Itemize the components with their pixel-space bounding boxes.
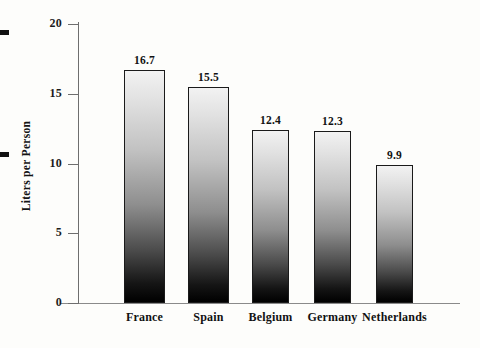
bar-value-label-belgium: 12.4 — [240, 114, 301, 126]
y-axis-tick-label: 0 — [32, 295, 62, 310]
x-axis-line — [60, 303, 460, 304]
y-axis-tick-label: 5 — [32, 225, 62, 240]
bar-value-label-spain: 15.5 — [176, 71, 241, 83]
y-axis-tick-label: 20 — [32, 16, 62, 31]
bar-belgium — [252, 130, 289, 303]
y-axis-tick-label: 10 — [32, 156, 62, 171]
bar-france — [124, 70, 165, 303]
scan-edge-mark-middle — [0, 152, 9, 157]
y-axis-title: Liters per Person — [20, 106, 32, 226]
y-axis-tick — [68, 303, 79, 304]
y-axis-tick — [68, 164, 79, 165]
x-axis-label-netherlands: Netherlands — [350, 310, 439, 325]
bar-value-label-germany: 12.3 — [302, 115, 363, 127]
scan-edge-mark-top — [0, 30, 9, 35]
bar-value-label-netherlands: 9.9 — [364, 149, 425, 161]
bar-netherlands — [376, 165, 413, 303]
y-axis-tick — [68, 94, 79, 95]
bar-chart: Liters per Person 05101520 16.7France15.… — [0, 0, 480, 348]
y-axis-tick-label: 15 — [32, 86, 62, 101]
bar-spain — [188, 87, 229, 303]
y-axis-tick — [68, 24, 79, 25]
bar-value-label-france: 16.7 — [112, 54, 177, 66]
bar-germany — [314, 131, 351, 303]
y-axis-tick — [68, 233, 79, 234]
